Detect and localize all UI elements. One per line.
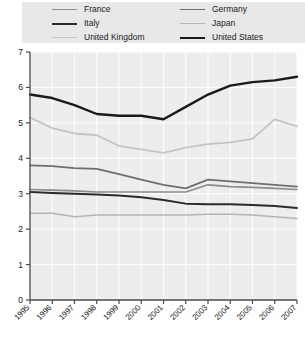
legend-item-united-kingdom: United Kingdom bbox=[52, 31, 144, 44]
x-tick-label: 2006 bbox=[257, 303, 276, 322]
legend-swatch-france bbox=[52, 9, 77, 10]
chart-legend: France Italy United Kingdom Germany Japa… bbox=[22, 2, 305, 43]
y-tick-label: 4 bbox=[18, 153, 23, 163]
legend-swatch-italy bbox=[52, 23, 77, 25]
legend-item-japan: Japan bbox=[180, 17, 263, 30]
chart-area: 01234567 1995199619971998199920002001200… bbox=[0, 44, 305, 342]
legend-item-germany: Germany bbox=[180, 3, 263, 16]
legend-label-germany: Germany bbox=[212, 5, 247, 14]
x-tick-label: 1998 bbox=[79, 303, 98, 322]
legend-label-united-states: United States bbox=[212, 33, 263, 42]
y-tick-label: 1 bbox=[18, 260, 23, 270]
y-tick-label: 7 bbox=[18, 47, 23, 57]
y-tick-label: 6 bbox=[18, 82, 23, 92]
legend-label-italy: Italy bbox=[84, 19, 100, 28]
legend-label-united-kingdom: United Kingdom bbox=[84, 33, 144, 42]
x-tick-label: 2005 bbox=[235, 303, 254, 322]
legend-swatch-united-states bbox=[180, 37, 205, 39]
x-tick-label: 2004 bbox=[213, 303, 232, 322]
legend-swatch-japan bbox=[180, 23, 205, 24]
legend-swatch-germany bbox=[180, 9, 205, 10]
line-chart: 01234567 1995199619971998199920002001200… bbox=[0, 44, 305, 342]
legend-swatch-united-kingdom bbox=[52, 37, 77, 38]
x-tick-label: 1999 bbox=[101, 303, 120, 322]
legend-label-france: France bbox=[84, 5, 110, 14]
y-tick-label: 3 bbox=[18, 189, 23, 199]
legend-item-france: France bbox=[52, 3, 144, 16]
x-tick-label: 1997 bbox=[57, 303, 76, 322]
y-axis-ticks: 01234567 bbox=[18, 47, 30, 305]
y-tick-label: 5 bbox=[18, 118, 23, 128]
legend-label-japan: Japan bbox=[212, 19, 235, 28]
legend-item-italy: Italy bbox=[52, 17, 144, 30]
x-tick-label: 2007 bbox=[279, 303, 298, 322]
x-tick-label: 2001 bbox=[146, 303, 165, 322]
x-tick-label: 1996 bbox=[35, 303, 54, 322]
x-tick-label: 2003 bbox=[190, 303, 209, 322]
chart-screenshot: France Italy United Kingdom Germany Japa… bbox=[0, 0, 305, 342]
y-tick-label: 0 bbox=[18, 295, 23, 305]
x-tick-label: 2002 bbox=[168, 303, 187, 322]
x-tick-label: 1995 bbox=[12, 303, 31, 322]
y-tick-label: 2 bbox=[18, 224, 23, 234]
legend-item-united-states: United States bbox=[180, 31, 263, 44]
legend-column-left: France Italy United Kingdom bbox=[52, 2, 144, 44]
legend-column-right: Germany Japan United States bbox=[180, 2, 263, 44]
x-axis-ticks: 1995199619971998199920002001200220032004… bbox=[12, 300, 298, 322]
x-tick-label: 2000 bbox=[124, 303, 143, 322]
